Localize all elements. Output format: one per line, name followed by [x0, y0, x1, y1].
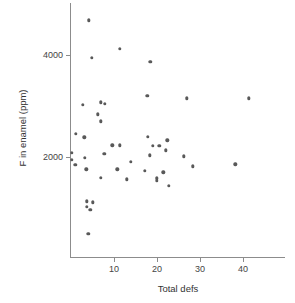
data-point [234, 162, 237, 165]
data-point [247, 97, 250, 100]
data-point [111, 144, 114, 147]
x-axis-title: Total defs [158, 283, 199, 294]
data-point [167, 184, 170, 187]
data-point [70, 151, 73, 154]
y-axis-title: F in enamel (ppm) [17, 68, 28, 188]
data-point [191, 164, 194, 167]
data-point [90, 56, 93, 59]
data-point [157, 144, 160, 147]
data-point [182, 155, 185, 158]
data-point [85, 168, 88, 171]
data-point [99, 101, 102, 104]
data-point [118, 144, 121, 147]
data-point [155, 179, 158, 182]
data-point [89, 208, 92, 211]
data-point [125, 178, 128, 181]
data-point [146, 135, 149, 138]
data-point [162, 171, 165, 174]
data-point [74, 132, 77, 135]
data-point [74, 163, 77, 166]
plot-area [0, 0, 295, 303]
data-point [70, 158, 73, 161]
data-point [148, 60, 151, 63]
data-point [86, 232, 89, 235]
data-point [99, 176, 102, 179]
data-point [91, 201, 94, 204]
data-point [185, 97, 188, 100]
data-point [99, 120, 102, 123]
data-point [148, 154, 151, 157]
data-point [83, 135, 86, 138]
data-point [151, 144, 154, 147]
data-point [81, 103, 84, 106]
data-point [116, 168, 119, 171]
data-point [166, 138, 169, 141]
data-point [102, 152, 105, 155]
data-point [143, 169, 146, 172]
data-point [103, 102, 106, 105]
data-point [129, 160, 132, 163]
data-point [87, 19, 90, 22]
data-point [164, 149, 167, 152]
data-point [85, 200, 88, 203]
data-point [83, 156, 86, 159]
scatter-chart: 10203040 20004000 Total defs F in enamel… [0, 0, 295, 303]
data-point [96, 112, 99, 115]
data-point [118, 47, 121, 50]
data-point [145, 94, 148, 97]
